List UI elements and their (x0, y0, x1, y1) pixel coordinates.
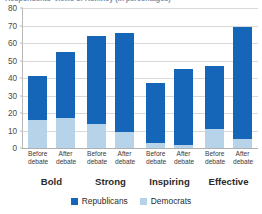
y-axis-tick-50: 50 (8, 56, 17, 65)
y-axis-tick-10: 10 (8, 126, 17, 135)
x-axis-label-inspiring-before: Beforedebate (146, 150, 165, 172)
legend-item-democrats[interactable]: Democrats (140, 196, 192, 206)
bar-segment-democrats (174, 145, 193, 149)
gridline-0 (22, 148, 258, 149)
bar-segment-republicans (174, 69, 193, 144)
x-axis-group-names: BoldStrongInspiringEffective (22, 176, 258, 190)
y-axis-tick-0: 0 (12, 144, 17, 153)
bar-effective-before[interactable] (205, 8, 224, 148)
legend-swatch-republicans-icon (71, 198, 78, 205)
y-axis: 01020304050607080 (0, 8, 20, 148)
legend-label-democrats: Democrats (151, 196, 192, 206)
x-labels-strong: BeforedebateAfterdebate (81, 150, 140, 172)
x-labels-bold: BeforedebateAfterdebate (22, 150, 81, 172)
bar-segment-republicans (87, 36, 106, 124)
legend-swatch-democrats-icon (140, 198, 147, 205)
x-axis-label-bold-before: Beforedebate (28, 150, 47, 172)
bar-groups (22, 8, 258, 148)
bar-segment-democrats (87, 124, 106, 149)
bar-segment-democrats (115, 132, 134, 148)
group-name-effective: Effective (199, 176, 258, 190)
x-axis-label-strong-before: Beforedebate (87, 150, 106, 172)
bar-inspiring-before[interactable] (146, 8, 165, 148)
chart-title: Respondents' views of Romney (in percent… (5, 0, 257, 3)
x-axis-label-inspiring-after: Afterdebate (174, 150, 193, 172)
x-axis-label-effective-before: Beforedebate (205, 150, 224, 172)
y-axis-tick-80: 80 (8, 4, 17, 13)
chart-container: Respondents' views of Romney (in percent… (0, 0, 262, 214)
bar-group-bold (22, 8, 81, 148)
x-axis-label-strong-after: Afterdebate (115, 150, 134, 172)
x-labels-inspiring: BeforedebateAfterdebate (140, 150, 199, 172)
bar-strong-after[interactable] (115, 8, 134, 148)
y-axis-tick-60: 60 (8, 39, 17, 48)
x-axis-label-effective-after: Afterdebate (233, 150, 252, 172)
bar-effective-after[interactable] (233, 8, 252, 148)
bar-segment-republicans (115, 33, 134, 133)
bar-segment-republicans (233, 27, 252, 139)
x-labels-effective: BeforedebateAfterdebate (199, 150, 258, 172)
bar-inspiring-after[interactable] (174, 8, 193, 148)
bar-group-strong (81, 8, 140, 148)
bar-segment-democrats (146, 143, 165, 148)
x-axis-labels: BeforedebateAfterdebateBeforedebateAfter… (22, 150, 258, 172)
bar-bold-before[interactable] (28, 8, 47, 148)
bar-segment-republicans (205, 66, 224, 129)
y-axis-tick-70: 70 (8, 21, 17, 30)
y-axis-tick-40: 40 (8, 74, 17, 83)
bar-segment-democrats (233, 139, 252, 148)
legend-label-republicans: Republicans (82, 196, 128, 206)
group-name-bold: Bold (22, 176, 81, 190)
bar-segment-democrats (28, 120, 47, 148)
bar-segment-republicans (56, 52, 75, 119)
bar-strong-before[interactable] (87, 8, 106, 148)
group-name-inspiring: Inspiring (140, 176, 199, 190)
x-axis-label-bold-after: Afterdebate (56, 150, 75, 172)
group-name-strong: Strong (81, 176, 140, 190)
y-axis-tick-30: 30 (8, 91, 17, 100)
legend-item-republicans[interactable]: Republicans (71, 196, 128, 206)
bar-bold-after[interactable] (56, 8, 75, 148)
y-axis-tick-20: 20 (8, 109, 17, 118)
bar-group-effective (199, 8, 258, 148)
chart-legend: RepublicansDemocrats (0, 196, 262, 206)
bar-segment-republicans (28, 76, 47, 120)
plot-area (22, 8, 258, 148)
bar-segment-republicans (146, 83, 165, 143)
bar-segment-democrats (205, 129, 224, 148)
bar-group-inspiring (140, 8, 199, 148)
bar-segment-democrats (56, 118, 75, 148)
